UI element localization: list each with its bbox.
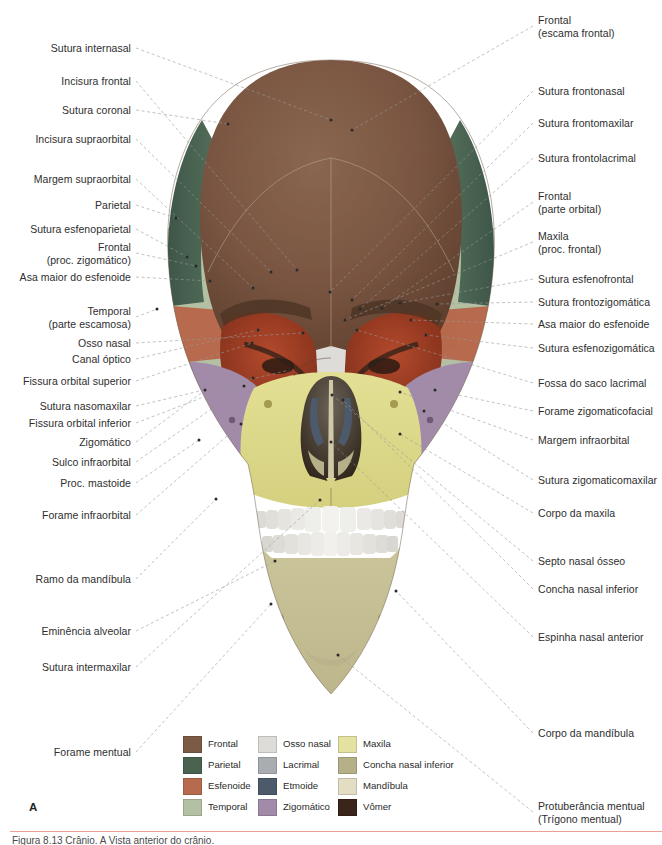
legend-color-swatch [338,778,357,795]
legend-item-label: Osso nasal [283,738,331,749]
legend-color-swatch [183,799,202,816]
teeth-lower [262,532,398,556]
panel-label-a: A [29,801,37,813]
legend-color-swatch [338,736,357,753]
annotation-label: Asa maior do esfenoide [538,318,649,331]
annotation-label: Sutura frontozigomática [538,296,650,309]
annotation-label: Sutura frontomaxilar [538,117,634,130]
annotation-label: Parietal [95,199,131,212]
caption-rule [10,831,662,832]
legend-item-label: Parietal [208,759,241,770]
annotation-label: Fissura orbital superior [23,375,131,388]
legend-item-label: Esfenoide [208,780,251,791]
legend-color-swatch [183,736,202,753]
annotation-label: Sulco infraorbital [52,456,131,469]
annotation-label: Frontal (escama frontal) [538,14,615,39]
figure-caption: Figura 8.13 Crânio. A Vista anterior do … [12,835,652,845]
infraorbital-foramen-right [390,400,398,408]
annotation-label: Sutura coronal [62,104,131,117]
legend-color-swatch [183,778,202,795]
annotation-label: Sutura nasomaxilar [40,400,131,413]
legend-item-label: Concha nasal inferior [363,759,454,770]
annotation-label: Corpo da maxila [538,507,615,520]
annotation-label: Fissura orbital inferior [29,417,131,430]
legend-color-swatch [258,757,277,774]
infraorbital-foramen-left [264,400,272,408]
legend-color-swatch [338,757,357,774]
annotation-label: Sutura frontonasal [538,85,625,98]
annotation-label: Canal óptico [72,353,131,366]
zygomaticofacial-foramen-left [229,417,235,423]
annotation-label: Concha nasal inferior [538,583,638,596]
legend-item-label: Maxila [363,738,391,749]
annotation-label: Septo nasal ósseo [538,555,625,568]
annotation-label: Protuberância mentual (Trígono mentual) [538,800,645,825]
annotation-label: Corpo da mandíbula [538,727,634,740]
legend-item-label: Vômer [363,801,391,812]
annotation-label: Ramo da mandíbula [36,573,131,586]
zygomaticofacial-foramen-right [427,417,433,423]
legend-item-label: Zigomático [283,801,330,812]
bony-nasal-septum-vomer [328,380,334,482]
annotation-label: Incisura supraorbital [35,133,131,146]
annotation-label: Sutura internasal [51,42,131,55]
annotation-label: Sutura zigomaticomaxilar [538,474,657,487]
annotation-label: Frontal (parte orbital) [538,190,601,215]
annotation-label: Sutura frontolacrimal [538,152,636,165]
annotation-label: Maxila (proc. frontal) [538,230,601,255]
annotation-label: Temporal (parte escamosa) [49,305,132,330]
annotation-label: Sutura intermaxilar [42,661,131,674]
legend-item-label: Mandíbula [363,780,408,791]
skull-anterior-view-illustration [128,58,534,748]
legend-color-swatch [258,736,277,753]
annotation-label: Asa maior do esfenoide [20,271,131,284]
annotation-label: Margem infraorbital [538,434,629,447]
legend-color-swatch [258,799,277,816]
annotation-label: Sutura esfenozigomática [538,342,655,355]
annotation-label: Frontal (proc. zigomático) [47,241,131,266]
teeth-upper [255,506,407,532]
annotation-label: Margem supraorbital [34,173,131,186]
legend-color-swatch [258,778,277,795]
legend-item-label: Frontal [208,738,238,749]
annotation-label: Proc. mastoide [60,477,131,490]
annotation-label: Forame mentual [54,746,131,759]
annotation-label: Incisura frontal [61,75,131,88]
annotation-label: Forame infraorbital [42,509,131,522]
annotation-label: Fossa do saco lacrimal [538,377,646,390]
annotation-label: Sutura esfenoparietal [30,223,131,236]
annotation-label: Sutura esfenofrontal [538,273,634,286]
legend-item-label: Lacrimal [283,759,319,770]
legend-color-swatch [338,799,357,816]
annotation-label: Espinha nasal anterior [538,631,644,644]
legend-item-label: Temporal [208,801,247,812]
annotation-label: Eminência alveolar [41,625,131,638]
legend-color-swatch [183,757,202,774]
annotation-label: Osso nasal [78,337,131,350]
annotation-label: Zigomático [79,436,131,449]
legend-item-label: Etmoide [283,780,318,791]
annotation-label: Forame zigomaticofacial [538,405,653,418]
bone-color-legend: FrontalParietalEsfenoideTemporalOsso nas… [183,735,483,823]
